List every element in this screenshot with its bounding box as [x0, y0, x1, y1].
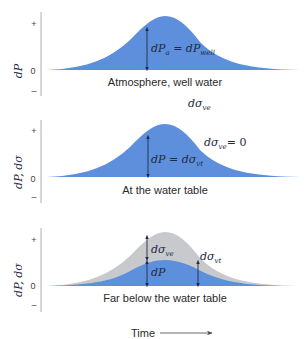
tick-zero: 0 — [30, 66, 35, 76]
label-dsigma-ve-zero: dσve= 0 — [204, 136, 246, 151]
tick-plus: + — [31, 235, 36, 245]
panel-caption: Atmosphere, well water — [108, 76, 223, 88]
panel-caption: Far below the water table — [103, 292, 227, 304]
pressure-curve — [47, 124, 300, 177]
y-axis-label: dP — [12, 63, 25, 78]
tick-zero: 0 — [30, 174, 35, 184]
tick-plus: + — [31, 126, 36, 136]
pore-pressure-diagram: + 0 – dP dPa = dPwell Atmosphere, well w… — [0, 0, 308, 339]
equation-dpa-dpwell: dPa = dPwell — [151, 42, 215, 57]
label-dsigma-ve: dσve — [188, 97, 211, 112]
y-axis-label: dP, dσ — [12, 155, 25, 189]
tick-minus: – — [31, 86, 36, 96]
panel-far-below: + 0 – dP, dσ dσve dP dσvt Far below the … — [12, 228, 300, 312]
tick-minus: – — [31, 192, 36, 202]
y-axis-label: dP, dσ — [12, 263, 25, 297]
panel-water-table: + 0 – dP, dσ dP = dσvt dσve= 0 At the wa… — [12, 120, 300, 203]
label-dsigma-vt: dσvt — [200, 250, 222, 265]
tick-zero: 0 — [30, 281, 35, 291]
equation-dp-dsigma-vt: dP = dσvt — [151, 153, 203, 168]
label-dp: dP — [151, 266, 166, 279]
tick-plus: + — [31, 19, 36, 29]
panel-caption: At the water table — [122, 184, 208, 196]
x-axis-label: Time — [131, 327, 155, 339]
panel-atmosphere: + 0 – dP dPa = dPwell Atmosphere, well w… — [12, 12, 300, 96]
tick-minus: – — [31, 300, 36, 310]
